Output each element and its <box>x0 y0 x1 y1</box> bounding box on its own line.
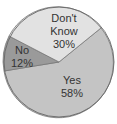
label-no: No <box>15 44 29 56</box>
label-yes-value: 58% <box>61 87 83 99</box>
label-dont-know-value: 30% <box>53 38 75 50</box>
label-dont-know-line1: Don't <box>51 12 76 24</box>
label-no-value: 12% <box>11 57 33 69</box>
label-dont-know-line2: Know <box>50 25 78 37</box>
label-yes: Yes <box>63 74 81 86</box>
pie-chart: Don't Know 30% No 12% Yes 58% <box>0 0 117 124</box>
